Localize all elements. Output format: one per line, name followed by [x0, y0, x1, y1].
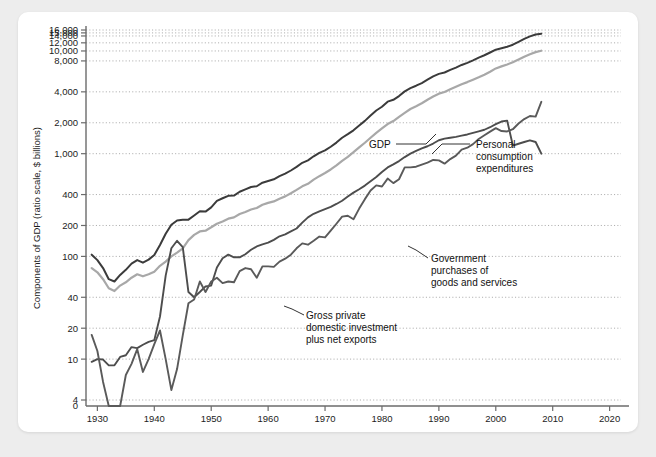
investment-annotation: Gross privatedomestic investmentplus net…: [306, 310, 397, 345]
investment-annotation-leader: [284, 306, 304, 315]
x-tick-label: 1960: [258, 413, 279, 424]
gdp-annotation-leader: [396, 134, 436, 144]
y-tick-group: 41020401002004001,0002,0004,0008,00010,0…: [49, 24, 86, 411]
y-tick-label: 40: [67, 292, 78, 303]
x-tick-label: 1980: [371, 413, 392, 424]
x-tick-label: 1970: [314, 413, 335, 424]
x-tick-label: 2000: [485, 413, 506, 424]
components-of-gdp-chart: 41020401002004001,0002,0004,0008,00010,0…: [18, 12, 638, 432]
pce-annotation: Personalconsumptionexpenditures: [476, 139, 533, 174]
annotation-group: GDPPersonalconsumptionexpendituresGovern…: [284, 134, 533, 345]
y-tick-label: 100: [62, 251, 78, 262]
x-tick-label: 1990: [428, 413, 449, 424]
x-tick-label: 2020: [599, 413, 620, 424]
x-tick-label: 1930: [87, 413, 108, 424]
y-axis-title: Components of GDP (ratio scale, $ billio…: [31, 127, 42, 309]
y-tick-label: 2,000: [54, 117, 78, 128]
y-tick-label: 20: [67, 323, 78, 334]
x-tick-label: 1950: [201, 413, 222, 424]
chart-canvas: 41020401002004001,0002,0004,0008,00010,0…: [18, 12, 638, 432]
x-tick-group: 1930194019501960197019801990200020102020: [87, 406, 620, 424]
y-tick-label: 200: [62, 220, 78, 231]
gdp-annotation: GDP: [369, 139, 391, 150]
series-group: [92, 34, 542, 406]
y-tick-label: 400: [62, 189, 78, 200]
x-tick-label: 1940: [144, 413, 165, 424]
figure-card: 41020401002004001,0002,0004,0008,00010,0…: [18, 12, 638, 432]
government-annotation-leader: [408, 246, 428, 258]
y-tick-label: 10: [67, 354, 78, 365]
y-tick-label: 4,000: [54, 86, 78, 97]
government-annotation: Governmentpurchases ofgoods and services: [431, 253, 517, 288]
y-tick-label: 8,000: [54, 55, 78, 66]
y-tick-label: 1,000: [54, 148, 78, 159]
x-tick-label: 2010: [542, 413, 563, 424]
y-tick-label-zero: 0: [73, 400, 78, 411]
y-tick-label: 16,000: [49, 24, 78, 35]
series-line-gdp: [92, 34, 542, 282]
